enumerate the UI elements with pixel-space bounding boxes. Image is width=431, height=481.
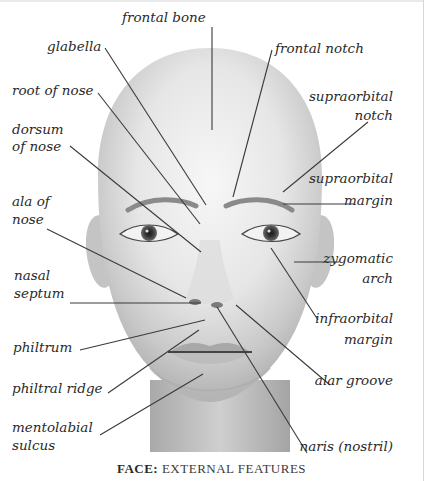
label-frontal-notch: frontal notch [275,40,364,56]
label-mentolabial-sulcus-line1: mentolabial [12,419,93,435]
face-anatomy-figure: frontal bone glabella root of nose dorsu… [0,0,431,481]
label-nasal-septum-line2: septum [14,285,64,301]
label-philtrum: philtrum [13,339,72,355]
caption-subtitle: EXTERNAL FEATURES [158,461,306,476]
label-glabella: glabella [47,38,101,54]
label-ala-of-nose-line2: nose [12,211,44,227]
caption-title: FACE: [117,461,158,476]
label-infraorbital-margin-line2: margin [344,331,393,347]
label-frontal-bone: frontal bone [122,9,206,25]
label-supraorbital-margin-line2: margin [344,192,393,208]
label-supraorbital-margin-line1: supraorbital [309,170,393,186]
label-zygomatic-arch-line2: arch [362,270,393,286]
label-dorsum-of-nose-line1: dorsum [12,121,64,137]
label-naris: naris (nostril) [299,438,393,454]
label-supraorbital-notch-line1: supraorbital [309,88,393,104]
figure-caption: FACE: EXTERNAL FEATURES [0,461,423,477]
label-ala-of-nose-line1: ala of [12,193,50,209]
label-dorsum-of-nose-line2: of nose [12,138,61,154]
label-philtral-ridge: philtral ridge [12,380,103,396]
right-border [423,0,424,481]
label-supraorbital-notch-line2: notch [354,107,393,123]
label-mentolabial-sulcus-line2: sulcus [12,437,55,453]
label-infraorbital-margin-line1: infraorbital [315,310,393,326]
label-nasal-septum-line1: nasal [14,267,50,283]
label-alar-groove: alar groove [315,372,393,388]
face-illustration [0,0,431,481]
label-zygomatic-arch-line1: zygomatic [323,250,393,266]
label-root-of-nose: root of nose [12,82,94,98]
